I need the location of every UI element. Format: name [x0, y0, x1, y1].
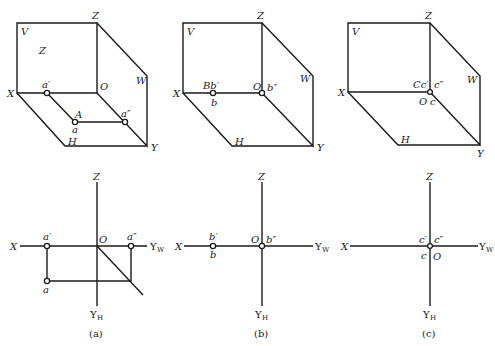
panel-b-pictorial: Z V W X Bb′ b O b″ H Y — [172, 10, 325, 153]
label-h: H — [400, 134, 410, 145]
label-o: O — [419, 96, 427, 107]
label-v: V — [21, 26, 30, 37]
label-o: O — [99, 234, 107, 245]
label-a-double-prime: a″ — [121, 108, 131, 119]
point-c — [428, 244, 433, 249]
label-y: Y — [151, 142, 159, 153]
panel-c-projection: Z X c′ c″ c O Y W Y H (c) — [340, 171, 494, 339]
label-A: A — [74, 109, 82, 120]
label-yh: Y — [422, 309, 430, 320]
label-y: Y — [477, 148, 485, 159]
label-c: c — [421, 250, 427, 261]
label-w: W — [136, 75, 147, 86]
point-a-double-prime — [122, 119, 127, 124]
projector-lines — [47, 246, 131, 281]
v-plane — [183, 23, 262, 93]
h-plane — [348, 92, 480, 145]
label-x: X — [9, 241, 18, 252]
label-o: O — [100, 81, 108, 92]
label-o: O — [433, 251, 441, 262]
h-plane — [183, 93, 313, 146]
label-b-prime: b′ — [209, 231, 218, 242]
label-yh-sub: H — [262, 314, 268, 322]
label-yw: Y — [314, 241, 322, 252]
point-B — [210, 90, 215, 95]
label-Bb-prime: Bb′ — [202, 80, 220, 91]
point-a — [44, 278, 49, 283]
label-x: X — [174, 241, 183, 252]
panel-a-pictorial: Z V Z W X O a′ A a a″ H Y — [6, 10, 159, 153]
label-yh: Y — [89, 309, 97, 320]
label-z: Z — [425, 171, 434, 182]
label-o: O — [253, 81, 261, 92]
label-h: H — [234, 136, 244, 147]
v-plane — [17, 23, 97, 93]
label-yw: Y — [149, 241, 157, 252]
label-b: b — [210, 249, 216, 260]
label-a-prime: a′ — [43, 231, 52, 242]
label-a-prime: a′ — [42, 79, 51, 90]
label-yw-sub: W — [322, 246, 330, 254]
label-h: H — [67, 136, 77, 147]
label-c-prime: c′ — [419, 234, 428, 245]
label-a-double-prime: a″ — [127, 231, 137, 242]
label-w: W — [467, 74, 478, 85]
45-degree-line — [97, 246, 143, 295]
label-a: a — [43, 284, 49, 295]
caption-c: (c) — [422, 328, 436, 339]
point-b-prime — [210, 243, 215, 248]
label-c-double-prime: c″ — [434, 79, 444, 90]
label-v: V — [187, 26, 196, 37]
label-y: Y — [317, 142, 325, 153]
label-x: X — [340, 241, 349, 252]
label-yh-sub: H — [97, 314, 103, 322]
panel-c-pictorial: Z V W X Cc′ c″ O c H Y — [337, 10, 485, 159]
label-yw-sub: W — [486, 246, 494, 254]
label-yh: Y — [254, 309, 262, 320]
panel-b-projection: Z X b′ b O b″ Y W Y H (b) — [174, 171, 330, 339]
projector-lines — [47, 93, 125, 122]
label-z: Z — [92, 171, 101, 182]
label-w: W — [300, 73, 311, 84]
label-b: b — [211, 97, 217, 108]
point-a-prime — [44, 90, 49, 95]
projection-figure: Z V Z W X O a′ A a a″ H Y Z V W X Bb′ b … — [0, 0, 495, 346]
label-yw-sub: W — [157, 246, 165, 254]
label-x: X — [172, 88, 181, 99]
panel-a-projection: Z X a′ O a″ Y W a Y H (a) — [9, 171, 165, 339]
point-b-double-prime — [259, 243, 264, 248]
label-c-double-prime: c″ — [434, 234, 444, 245]
label-v: V — [352, 26, 361, 37]
point-a-prime — [44, 243, 49, 248]
label-b-double-prime: b″ — [267, 82, 277, 93]
label-yh-sub: H — [430, 314, 436, 322]
point-a-double-prime — [128, 243, 133, 248]
label-c: c — [430, 96, 436, 107]
label-z: Z — [424, 10, 433, 21]
label-b-double-prime: b″ — [266, 234, 276, 245]
label-z: Z — [257, 171, 266, 182]
label-inner-z: Z — [38, 45, 47, 56]
label-z: Z — [91, 10, 100, 21]
caption-a: (a) — [89, 328, 103, 339]
label-yw: Y — [478, 241, 486, 252]
caption-b: (b) — [254, 328, 268, 339]
label-x: X — [6, 88, 15, 99]
label-z: Z — [256, 10, 265, 21]
label-a: a — [72, 124, 78, 135]
label-Cc-prime: Cc′ — [413, 79, 429, 90]
label-x: X — [337, 87, 346, 98]
label-o: O — [251, 234, 259, 245]
point-C — [428, 90, 433, 95]
